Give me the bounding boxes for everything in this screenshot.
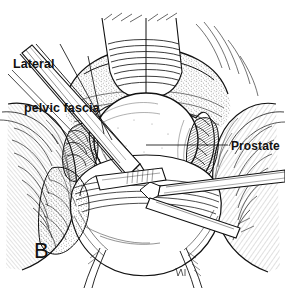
figure-panel-b: Lateral pelvic fascia Prostate B [0,0,285,288]
label-prostate: Prostate [231,139,280,153]
label-lateral-pelvic-fascia-line1: Lateral [13,57,100,72]
label-lateral-pelvic-fascia-line2: pelvic fascia [13,101,100,116]
panel-letter: B [34,240,49,262]
label-lateral-pelvic-fascia: Lateral pelvic fascia [13,27,100,145]
